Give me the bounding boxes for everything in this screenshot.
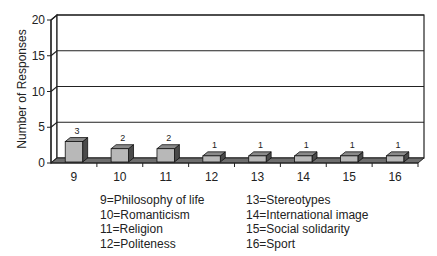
legend-item: 10=Romanticism: [100, 208, 204, 223]
x-tick-label: 13: [251, 170, 265, 184]
bar-front: [249, 156, 266, 162]
x-tick-label: 10: [113, 170, 127, 184]
bar-front: [203, 156, 220, 162]
x-tick-label: 16: [388, 170, 402, 184]
x-tick-label: 15: [343, 170, 357, 184]
x-tick-label: 14: [297, 170, 311, 184]
data-label: 2: [120, 133, 125, 143]
floor: [51, 158, 424, 163]
data-label: 1: [212, 140, 217, 150]
x-axis-ticks: 910111213141516: [51, 163, 418, 184]
data-label: 1: [304, 140, 309, 150]
bar-front: [157, 149, 174, 162]
bar-front: [340, 156, 357, 162]
data-label: 3: [74, 126, 79, 136]
y-tick-label: 0: [38, 156, 45, 170]
legend-column-left: 9=Philosophy of life 10=Romanticism 11=R…: [100, 193, 204, 251]
x-tick-label: 11: [159, 170, 172, 184]
bar-front: [111, 149, 128, 162]
legend-item: 9=Philosophy of life: [100, 193, 204, 208]
data-label: 1: [396, 140, 401, 150]
y-tick-label: 5: [38, 120, 45, 134]
y-tick-label: 20: [32, 13, 46, 27]
bar-front: [65, 142, 82, 162]
legend-column-right: 13=Stereotypes 14=International image 15…: [246, 193, 368, 251]
x-tick-label: 9: [71, 170, 78, 184]
bar-front: [386, 156, 403, 162]
legend-item: 13=Stereotypes: [246, 193, 368, 208]
bar-chart: 05101520 32211111 910111213141516: [0, 0, 437, 190]
y-axis-label: Number of Responses: [15, 29, 29, 149]
x-tick-label: 12: [205, 170, 219, 184]
legend-item: 14=International image: [246, 208, 368, 223]
bar-front: [295, 156, 312, 162]
legend-item: 12=Politeness: [100, 237, 204, 252]
data-label: 1: [350, 140, 355, 150]
data-label: 2: [166, 133, 171, 143]
legend-item: 11=Religion: [100, 222, 204, 237]
data-label: 1: [258, 140, 263, 150]
legend-item: 15=Social solidarity: [246, 222, 368, 237]
legend-item: 16=Sport: [246, 237, 368, 252]
y-axis-ticks: 05101520: [32, 13, 51, 170]
chart-walls: [51, 15, 424, 163]
y-tick-label: 15: [32, 49, 46, 63]
y-tick-label: 10: [32, 85, 46, 99]
